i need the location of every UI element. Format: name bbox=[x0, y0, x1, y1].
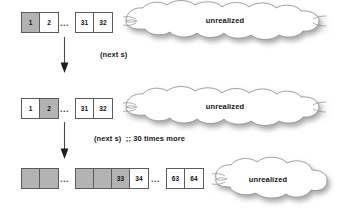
stream-cell[interactable] bbox=[40, 169, 58, 188]
cell-group-row2-tail: 31 32 bbox=[75, 98, 113, 119]
stream-cell[interactable]: 2 bbox=[40, 99, 58, 118]
stream-cell[interactable]: 34 bbox=[130, 169, 148, 188]
stream-cell[interactable]: 2 bbox=[40, 13, 58, 32]
stream-cell[interactable]: 64 bbox=[185, 169, 203, 188]
stream-cell[interactable]: 1 bbox=[22, 99, 40, 118]
cloud-label: unrealized bbox=[116, 16, 334, 25]
ellipsis-row3-2: ... bbox=[151, 175, 160, 184]
transition-label-1: (next s) bbox=[100, 50, 127, 59]
unrealized-cloud-row1: unrealized bbox=[116, 0, 334, 42]
ellipsis-row3-1: ... bbox=[60, 175, 69, 184]
cell-group-row3-head bbox=[21, 168, 59, 189]
ellipsis-row1-1: ... bbox=[60, 19, 69, 28]
stream-cell[interactable] bbox=[94, 169, 112, 188]
stream-cell[interactable]: 32 bbox=[94, 99, 112, 118]
transition-arrow-1 bbox=[58, 37, 72, 74]
stream-cell[interactable]: 1 bbox=[22, 13, 40, 32]
stream-cell[interactable] bbox=[22, 169, 40, 188]
unrealized-cloud-row2: unrealized bbox=[116, 86, 334, 128]
stream-cell[interactable] bbox=[76, 169, 94, 188]
cell-group-row3-tail: 63 64 bbox=[166, 168, 204, 189]
cell-group-row2-head: 1 2 bbox=[21, 98, 59, 119]
cell-group-row1-head: 1 2 bbox=[21, 12, 59, 33]
cell-group-row3-middle: 33 34 bbox=[75, 168, 149, 189]
stream-cell[interactable]: 63 bbox=[167, 169, 185, 188]
transition-arrow-2 bbox=[58, 122, 72, 160]
stream-cell[interactable]: 31 bbox=[76, 99, 94, 118]
cell-group-row1-tail: 31 32 bbox=[75, 12, 113, 33]
diagram-canvas: 1 2 ... 31 32 bbox=[0, 0, 340, 211]
unrealized-cloud-row3: unrealized bbox=[204, 156, 334, 202]
ellipsis-row2-1: ... bbox=[60, 105, 69, 114]
cloud-label: unrealized bbox=[116, 102, 334, 111]
stream-cell[interactable]: 32 bbox=[94, 13, 112, 32]
transition-label-2: (next s) ;; 30 times more bbox=[94, 134, 185, 143]
cloud-label: unrealized bbox=[210, 175, 326, 184]
stream-cell[interactable]: 33 bbox=[112, 169, 130, 188]
stream-cell[interactable]: 31 bbox=[76, 13, 94, 32]
